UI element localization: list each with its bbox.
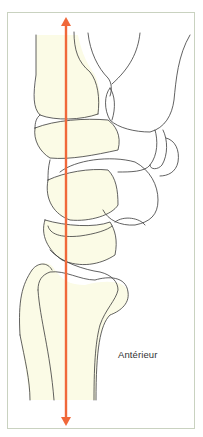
wrist-bones-diagram xyxy=(0,0,203,437)
highlighted-bones xyxy=(20,35,129,400)
arrow-down-icon xyxy=(61,417,71,426)
anterior-label: Antérieur xyxy=(118,349,157,360)
arrow-up-icon xyxy=(61,17,71,26)
